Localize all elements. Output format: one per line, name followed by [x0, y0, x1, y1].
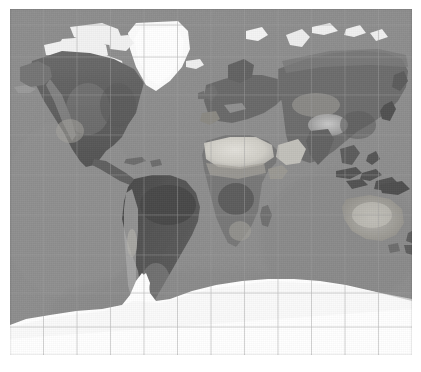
map-page: [0, 0, 421, 372]
world-map-figure[interactable]: [10, 9, 412, 355]
world-map-svg: [10, 9, 412, 355]
texture-layer: [10, 9, 412, 355]
